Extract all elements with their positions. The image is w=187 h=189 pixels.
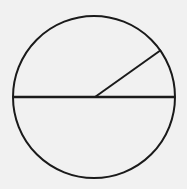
background [0,0,187,189]
circle-diagram [0,0,187,189]
